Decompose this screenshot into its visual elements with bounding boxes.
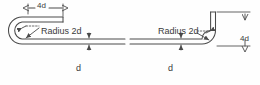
right-bar-diameter-label: d — [168, 64, 173, 73]
left-radius-leader — [22, 26, 39, 38]
right-radius-label: Radius 2d — [158, 27, 199, 36]
rebar-hook-figure: 4d Radius 2d d Radius 2d 4d d — [0, 0, 260, 85]
left-bar-diameter-label: d — [76, 64, 81, 73]
right-extension-label: 4d — [240, 35, 249, 43]
left-radius-label: Radius 2d — [41, 27, 82, 36]
left-extension-label: 4d — [37, 2, 46, 10]
diagram-linework — [0, 0, 260, 85]
